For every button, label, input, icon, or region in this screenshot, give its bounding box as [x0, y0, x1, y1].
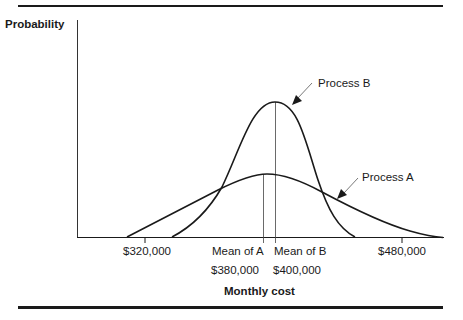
process-a-curve — [127, 174, 443, 238]
mean-b-label: Mean of B — [274, 245, 326, 257]
process-a-label: Process A — [362, 171, 414, 183]
process-a-arrow-line — [344, 178, 358, 193]
process-b-label: Process B — [318, 77, 370, 89]
mean-b-value: $400,000 — [273, 264, 321, 276]
bottom-rule — [18, 306, 443, 309]
x-axis-label: Monthly cost — [224, 285, 295, 297]
mean-a-value: $380,000 — [211, 264, 259, 276]
process-b-arrowhead-icon — [292, 95, 302, 105]
mean-a-label: Mean of A — [212, 245, 264, 257]
x-tick-label-480000: $480,000 — [378, 245, 426, 257]
process-b-arrow-line — [297, 83, 312, 99]
process-a-arrowhead-icon — [337, 189, 347, 199]
x-tick-label-320000: $320,000 — [123, 245, 171, 257]
